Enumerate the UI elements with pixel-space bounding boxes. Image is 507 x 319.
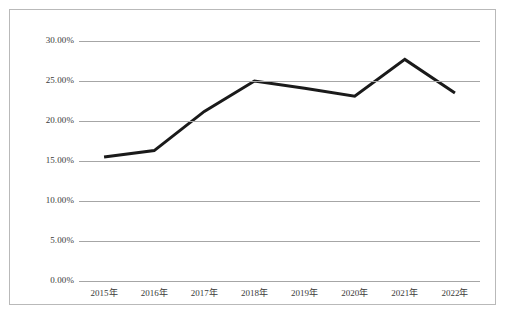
x-axis-labels: 2015年2016年2017年2018年2019年2020年2021年2022年 bbox=[79, 287, 480, 303]
gridline bbox=[79, 281, 480, 282]
gridline bbox=[79, 241, 480, 242]
line-chart-figure: 30.00%25.00%20.00%15.00%10.00%5.00%0.00%… bbox=[0, 0, 507, 319]
y-tick-label: 5.00% bbox=[6, 236, 74, 245]
gridline bbox=[79, 121, 480, 122]
x-tick-label: 2018年 bbox=[229, 287, 279, 303]
y-tick-label: 10.00% bbox=[6, 196, 74, 205]
x-tick-label: 2020年 bbox=[330, 287, 380, 303]
y-tick-label: 0.00% bbox=[6, 276, 74, 285]
plot-area bbox=[79, 41, 480, 281]
y-tick-label: 15.00% bbox=[6, 156, 74, 165]
gridline bbox=[79, 81, 480, 82]
x-tick-label: 2021年 bbox=[380, 287, 430, 303]
y-tick-label: 20.00% bbox=[6, 116, 74, 125]
x-tick-label: 2017年 bbox=[179, 287, 229, 303]
gridline bbox=[79, 41, 480, 42]
data-series-line bbox=[104, 59, 455, 157]
y-tick-label: 25.00% bbox=[6, 76, 74, 85]
x-tick-label: 2015年 bbox=[79, 287, 129, 303]
gridline bbox=[79, 201, 480, 202]
y-tick-label: 30.00% bbox=[6, 36, 74, 45]
y-axis-labels: 30.00%25.00%20.00%15.00%10.00%5.00%0.00% bbox=[0, 0, 74, 319]
gridline bbox=[79, 161, 480, 162]
x-tick-label: 2022年 bbox=[430, 287, 480, 303]
x-tick-label: 2019年 bbox=[280, 287, 330, 303]
x-tick-label: 2016年 bbox=[129, 287, 179, 303]
